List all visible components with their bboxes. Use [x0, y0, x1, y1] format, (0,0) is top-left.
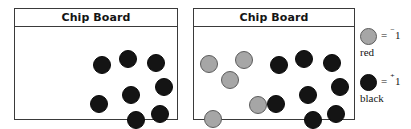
board-header: Chip Board [15, 9, 177, 27]
legend-equals: = [381, 29, 387, 41]
legend-magnitude: 1 [395, 75, 401, 87]
black-chip-icon[interactable] [323, 54, 341, 72]
legend: = ⁻1red= ⁺1black [360, 28, 411, 118]
gray-chip-icon[interactable] [221, 71, 239, 89]
legend-color-name: red [360, 46, 374, 58]
legend-row: = ⁻1red [360, 28, 411, 66]
legend-magnitude: 1 [395, 29, 401, 41]
chip-board-diagram: Chip BoardChip Board= ⁻1red= ⁺1black [0, 0, 411, 129]
black-chip-icon[interactable] [147, 54, 165, 72]
black-chip-icon[interactable] [267, 95, 285, 113]
gray-chip-icon [360, 28, 377, 45]
legend-value: = ⁺1 [381, 75, 400, 87]
gray-chip-icon[interactable] [204, 110, 222, 128]
black-chip-icon[interactable] [270, 56, 288, 74]
black-chip-icon[interactable] [331, 78, 349, 96]
board-title: Chip Board [61, 11, 130, 24]
black-chip-icon[interactable] [151, 105, 169, 123]
black-chip-icon [360, 74, 377, 91]
gray-chip-icon[interactable] [200, 55, 218, 73]
black-chip-icon[interactable] [93, 56, 111, 74]
black-chip-icon[interactable] [119, 50, 137, 68]
black-chip-icon[interactable] [155, 78, 173, 96]
board-header: Chip Board [194, 9, 354, 27]
legend-value: = ⁻1 [381, 29, 400, 41]
board-right[interactable]: Chip Board [193, 8, 355, 120]
black-chip-icon[interactable] [304, 111, 322, 129]
gray-chip-icon[interactable] [235, 51, 253, 69]
black-chip-icon[interactable] [90, 95, 108, 113]
black-chip-icon[interactable] [327, 105, 345, 123]
legend-color-name: black [360, 92, 384, 104]
legend-row: = ⁺1black [360, 74, 411, 112]
black-chip-icon[interactable] [122, 86, 140, 104]
black-chip-icon[interactable] [295, 50, 313, 68]
gray-chip-icon[interactable] [249, 96, 267, 114]
board-title: Chip Board [239, 11, 308, 24]
black-chip-icon[interactable] [127, 111, 145, 129]
black-chip-icon[interactable] [299, 86, 317, 104]
legend-equals: = [381, 75, 387, 87]
board-surface[interactable] [194, 28, 354, 119]
board-surface[interactable] [15, 28, 177, 119]
board-left[interactable]: Chip Board [14, 8, 178, 120]
